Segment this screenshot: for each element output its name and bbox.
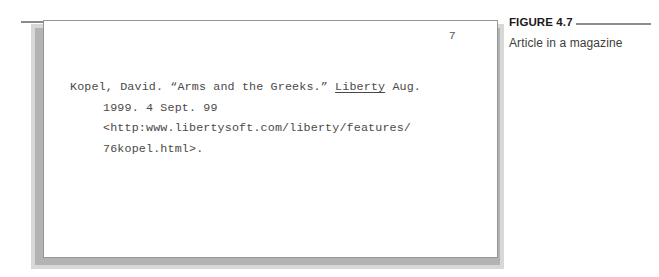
citation-text-segment: Aug. — [385, 80, 421, 94]
figure-container: 7 Kopel, David. “Arms and the Greeks.” L… — [0, 0, 659, 277]
figure-caption-text: Article in a magazine — [509, 36, 651, 51]
citation-source-title: Liberty — [335, 80, 385, 94]
citation-text-segment: Kopel, David. “Arms and the Greeks.” — [70, 80, 335, 94]
citation-text-segment: <http:www.libertysoft.com/liberty/featur… — [103, 121, 411, 135]
figure-label: FIGURE 4.7 — [509, 16, 576, 29]
figure-caption-column: FIGURE 4.7 Article in a magazine — [509, 12, 651, 51]
corner-rule-decoration — [21, 21, 45, 23]
citation-line: <http:www.libertysoft.com/liberty/featur… — [70, 118, 479, 139]
page-number: 7 — [449, 29, 456, 42]
citation-line: 76kopel.html>. — [70, 139, 479, 160]
citation-text-segment: 1999. 4 Sept. 99 — [103, 101, 218, 115]
citation-block: Kopel, David. “Arms and the Greeks.” Lib… — [70, 77, 479, 159]
manuscript-page: 7 Kopel, David. “Arms and the Greeks.” L… — [43, 20, 498, 258]
citation-text-segment: 76kopel.html>. — [103, 142, 203, 156]
citation-line: 1999. 4 Sept. 99 — [70, 98, 479, 119]
citation-line: Kopel, David. “Arms and the Greeks.” Lib… — [70, 77, 479, 98]
